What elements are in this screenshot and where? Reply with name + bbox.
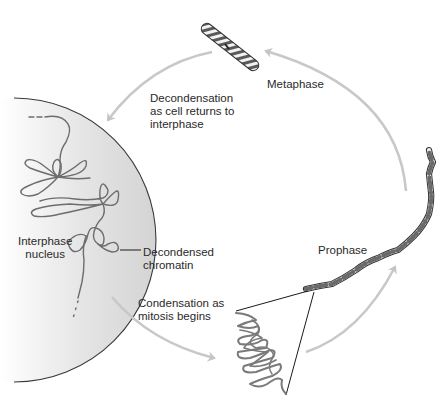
- label-prophase: Prophase: [318, 244, 367, 257]
- label-condensation: Condensation as mitosis begins: [138, 297, 224, 323]
- diagram-canvas: Metaphase Decondensation as cell returns…: [0, 0, 448, 418]
- callout-leader-line: [0, 0, 448, 418]
